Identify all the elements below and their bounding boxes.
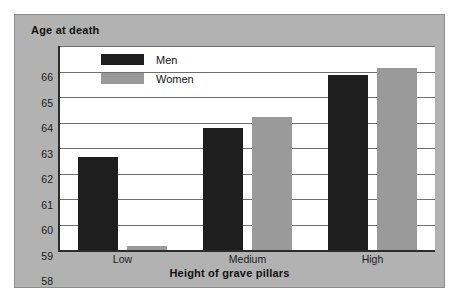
x-axis-title: Height of grave pillars [15,267,444,279]
chart-title: Age at death [31,24,99,36]
y-axis-tick-label: 66 [25,71,53,83]
y-axis-tick-label: 63 [25,148,53,160]
bar-women-low [127,246,167,250]
legend-label-men: Men [156,54,177,66]
x-axis-tick-label: High [362,253,384,265]
chart-legend: Men Women [101,53,241,91]
y-axis-tick-label: 60 [25,224,53,236]
x-axis-tick-label: Low [113,253,132,265]
legend-swatch-men-icon [101,54,144,65]
legend-swatch-women-icon [101,73,144,84]
y-axis-tick-label: 65 [25,97,53,109]
y-axis-tick-labels: 666564636261605958 [20,46,53,250]
y-axis-tick-label: 64 [25,122,53,134]
legend-label-women: Women [156,73,194,85]
x-axis-tick-label: Medium [229,253,266,265]
legend-item-women: Women [101,72,241,85]
gridline [60,46,435,47]
bar-men-low [78,157,118,250]
bar-women-medium [252,117,292,250]
bar-women-high [377,68,417,250]
y-axis-tick-label: 61 [25,199,53,211]
legend-item-men: Men [101,53,241,66]
y-axis-tick-label: 59 [25,250,53,262]
y-axis-tick-label: 62 [25,173,53,185]
chart-card: Age at death 666564636261605958 LowMediu… [14,14,445,288]
bar-men-medium [203,128,243,250]
bar-men-high [328,75,368,250]
